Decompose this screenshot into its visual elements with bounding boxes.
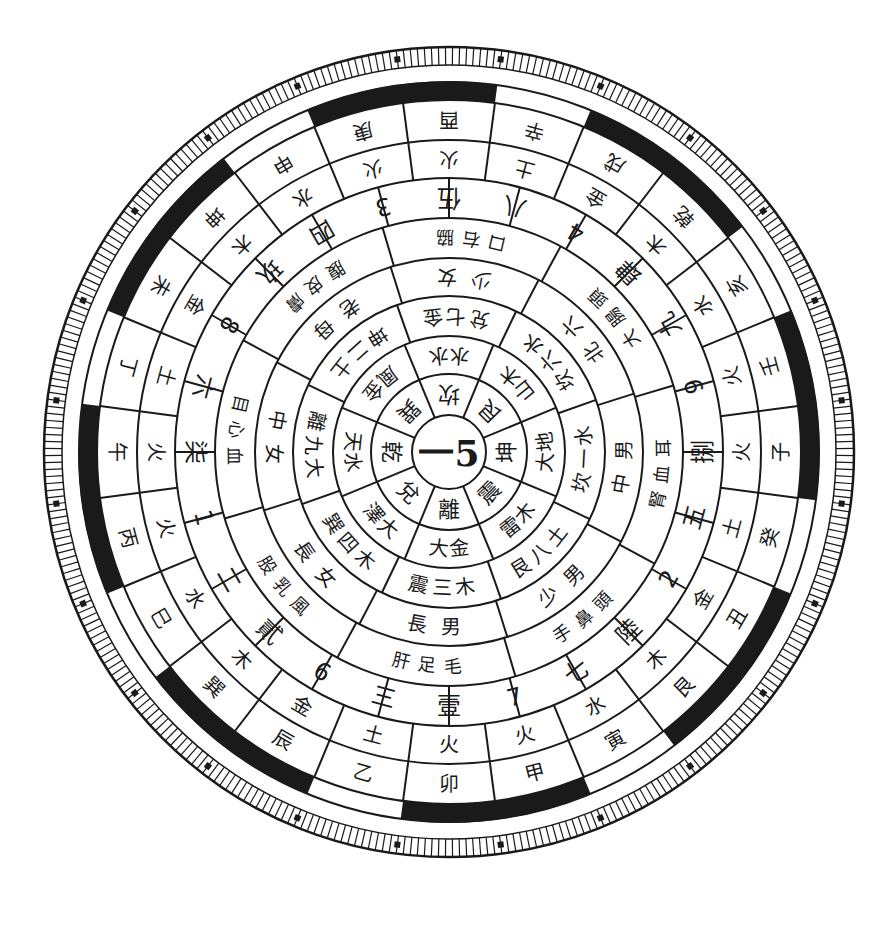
sector-divider <box>651 107 660 122</box>
branch-label: 子 <box>769 442 793 462</box>
sector-divider <box>90 631 106 639</box>
sector-divider <box>603 81 610 98</box>
sector-divider <box>814 581 831 587</box>
tick-dot <box>597 82 605 90</box>
sector-divider <box>186 144 198 158</box>
sector-divider <box>301 812 308 829</box>
sector-divider <box>554 705 584 777</box>
sector-divider <box>186 746 198 760</box>
sector-divider <box>666 238 728 285</box>
trigram-label: 坤 <box>494 441 519 463</box>
element-label: 水 <box>581 690 610 721</box>
sector-divider <box>275 86 283 102</box>
sector-divider <box>635 386 673 397</box>
tick-dot <box>79 600 87 608</box>
sector-divider <box>44 434 62 435</box>
sector-divider <box>389 51 392 69</box>
sector-divider <box>835 427 853 428</box>
sector-divider <box>90 265 106 273</box>
ring5-label: 口 <box>486 231 508 256</box>
element-label: 水 <box>180 584 211 613</box>
sector-divider <box>175 737 187 750</box>
trigram-label: 坎 <box>438 382 460 407</box>
element-label: 木 <box>641 644 672 675</box>
ring2-label: 水 <box>448 343 470 369</box>
sector-divider <box>730 173 743 185</box>
ring5-label: 手 <box>549 620 575 647</box>
sector-divider <box>622 798 630 814</box>
sector-divider <box>52 371 70 375</box>
ring5-label: 風 <box>287 592 315 620</box>
sector-divider <box>50 516 68 519</box>
sector-divider <box>526 831 530 849</box>
ring5-label: 股 <box>254 552 281 578</box>
sector-divider <box>585 814 591 831</box>
sector-divider <box>136 698 150 709</box>
sector-divider <box>479 838 480 856</box>
sector-divider <box>302 491 340 504</box>
sector-divider <box>725 168 738 181</box>
sector-divider <box>341 825 346 842</box>
sector-divider <box>175 153 187 166</box>
number-label: 柒 <box>181 440 209 464</box>
sector-divider <box>155 173 168 185</box>
sector-divider <box>603 807 610 824</box>
sector-divider <box>97 253 113 262</box>
sector-divider <box>150 713 163 725</box>
trigram-label: 離 <box>438 497 460 522</box>
sector-divider <box>424 838 425 856</box>
sector-divider <box>816 575 833 581</box>
trigram-label: 巽 <box>392 395 425 428</box>
sector-divider <box>499 311 516 347</box>
tick-dot <box>294 82 302 90</box>
sector-divider <box>493 50 495 68</box>
number-label: 伍 <box>437 184 461 212</box>
sector-divider <box>268 798 276 814</box>
sector-divider <box>59 555 76 560</box>
ring5-label: 足 <box>417 653 437 676</box>
sector-divider <box>835 420 853 421</box>
sector-divider <box>466 47 467 65</box>
sector-divider <box>834 489 852 491</box>
sector-divider <box>141 189 155 201</box>
branch-label: 乙 <box>350 759 376 787</box>
element-label: 火 <box>144 442 168 462</box>
sector-divider <box>225 775 235 790</box>
sector-divider <box>214 122 224 137</box>
sector-divider <box>410 837 412 855</box>
ring3-label: 木 <box>454 574 477 600</box>
sector-divider <box>533 57 537 75</box>
sector-divider <box>277 362 311 380</box>
sector-divider <box>473 838 474 856</box>
sector-divider <box>288 807 295 824</box>
sector-divider <box>663 775 673 790</box>
element-label: 土 <box>512 155 538 183</box>
sector-divider <box>827 536 845 540</box>
sector-divider <box>368 831 372 849</box>
sector-divider <box>775 660 790 670</box>
sector-divider <box>119 677 134 687</box>
sector-divider <box>521 280 539 314</box>
sector-divider <box>220 771 230 786</box>
ring4-label: 男 <box>612 440 636 460</box>
element-label: 火 <box>439 733 459 757</box>
element-label: 土 <box>360 721 386 749</box>
sector-divider <box>496 601 507 637</box>
element-label: 水 <box>288 183 317 214</box>
sector-divider <box>710 153 722 166</box>
sector-divider <box>334 823 339 840</box>
sector-divider <box>772 228 787 238</box>
sector-divider <box>552 62 557 79</box>
sector-divider <box>816 323 833 329</box>
sector-divider <box>97 643 113 652</box>
sector-divider <box>46 489 64 491</box>
ring4-label: 少 <box>533 581 563 612</box>
sector-divider <box>391 267 402 303</box>
ring5-label: 毛 <box>444 655 462 676</box>
number-label: 1 <box>188 507 219 529</box>
number-label: 4 <box>562 216 589 248</box>
sector-divider <box>520 833 523 851</box>
sector-divider <box>220 118 230 133</box>
number-label: 壹 <box>437 692 461 720</box>
element-label: 火 <box>360 155 386 183</box>
